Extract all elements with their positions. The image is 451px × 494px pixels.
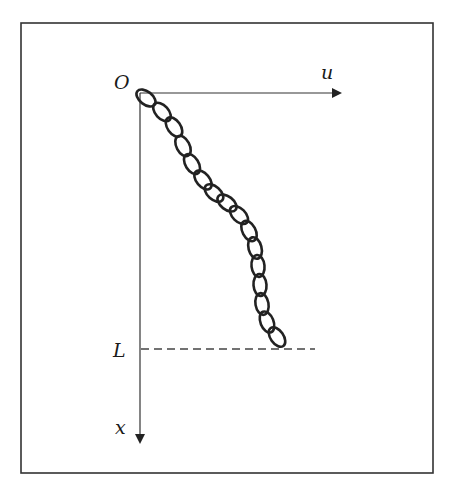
chain-link — [201, 181, 226, 205]
length-label: L — [112, 339, 126, 361]
chain-link — [181, 151, 204, 177]
chain-link — [265, 324, 288, 349]
u-axis-label: u — [321, 61, 333, 83]
chain-link — [227, 203, 252, 228]
chain — [133, 86, 288, 350]
x-axis-label: x — [115, 416, 126, 438]
chain-diagram: O u L x — [0, 0, 451, 494]
chain-link — [257, 309, 277, 334]
chain-link — [150, 99, 174, 124]
chain-link — [214, 191, 239, 215]
chain-link — [133, 86, 158, 110]
chain-link — [191, 167, 215, 192]
diagram-frame — [21, 23, 433, 473]
origin-label: O — [114, 71, 130, 93]
